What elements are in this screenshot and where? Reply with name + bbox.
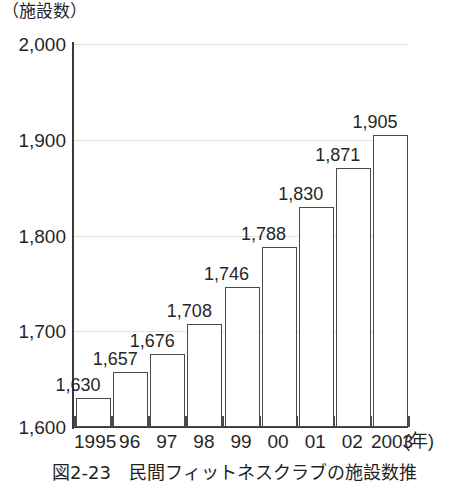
x-axis-tick <box>371 416 373 427</box>
x-axis-tick <box>222 416 224 427</box>
bar-value-label: 1,788 <box>236 225 292 243</box>
x-axis-tick <box>74 416 76 427</box>
y-tick-label-1800: 1,800 <box>0 227 66 246</box>
bar[interactable] <box>187 324 222 427</box>
x-tick-label-02: 02 <box>334 431 371 453</box>
x-axis-tick <box>185 416 187 427</box>
x-axis-tick <box>260 416 262 427</box>
figure-caption: 図2-23 民間フィットネスクラブの施設数推 <box>52 462 417 484</box>
x-axis-tick <box>297 416 299 427</box>
x-tick-label-98: 98 <box>185 431 222 453</box>
y-axis-unit-label: （施設数） <box>2 1 87 23</box>
x-axis-unit-label: (年) <box>404 430 434 452</box>
x-axis-tick <box>408 416 410 427</box>
bar[interactable] <box>225 287 260 427</box>
x-tick-label-96: 96 <box>111 431 148 453</box>
x-axis-tick <box>111 416 113 427</box>
bar[interactable] <box>262 247 297 427</box>
x-axis-tick <box>148 416 150 427</box>
bar-value-label: 1,708 <box>161 302 217 320</box>
bar[interactable] <box>373 135 408 427</box>
bar[interactable] <box>76 398 111 427</box>
bar-value-label: 1,746 <box>199 265 255 283</box>
bar-value-label: 1,657 <box>87 350 143 368</box>
x-tick-label-2003: 2003 <box>371 431 408 453</box>
bar-value-label: 1,871 <box>310 146 366 164</box>
bar[interactable] <box>299 207 334 427</box>
bar-value-label: 1,830 <box>273 185 329 203</box>
x-tick-label-97: 97 <box>148 431 185 453</box>
y-tick-label-1900: 1,900 <box>0 131 66 150</box>
bar[interactable] <box>336 168 371 427</box>
x-tick-label-00: 00 <box>260 431 297 453</box>
x-axis-tick <box>334 416 336 427</box>
x-tick-label-1995: 1995 <box>74 431 111 453</box>
bar[interactable] <box>150 354 185 427</box>
plot-area: 1,6301,6571,6761,7081,7461,7881,8301,871… <box>74 44 408 427</box>
y-tick-label-2000: 2,000 <box>0 35 66 54</box>
bar-value-label: 1,905 <box>347 113 403 131</box>
gridline-2000 <box>74 44 408 45</box>
bar-value-label: 1,630 <box>50 376 106 394</box>
y-tick-label-1700: 1,700 <box>0 322 66 341</box>
gridline-1900 <box>74 140 408 141</box>
x-tick-label-01: 01 <box>297 431 334 453</box>
bar[interactable] <box>113 372 148 427</box>
y-tick-label-1600: 1,600 <box>0 418 66 437</box>
bar-value-label: 1,676 <box>124 332 180 350</box>
x-tick-label-99: 99 <box>222 431 259 453</box>
